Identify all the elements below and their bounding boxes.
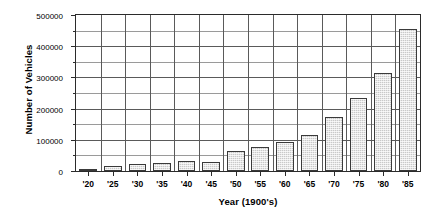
plot-area: 0100000200000300000400000500000'20'25'30… (75, 14, 421, 172)
x-axis-tick-label: '70 (328, 179, 339, 189)
x-axis-tick-label: '55 (255, 179, 266, 189)
x-axis-tick (187, 171, 188, 176)
bar (178, 161, 196, 171)
gridline-vertical (297, 15, 298, 171)
y-axis-tick: 400000 (71, 46, 76, 47)
gridline-vertical (125, 15, 126, 171)
x-axis-tick-label: '25 (107, 179, 118, 189)
x-axis-tick-label: '80 (377, 179, 388, 189)
bar (129, 164, 147, 171)
x-axis-tick-label: '45 (205, 179, 216, 189)
y-axis-tick-label: 400000 (36, 43, 63, 52)
x-axis-tick-label: '85 (402, 179, 413, 189)
y-axis-tick: 0 (71, 171, 76, 172)
y-axis-tick: 100000 (71, 140, 76, 141)
x-axis-tick (285, 171, 286, 176)
x-axis-tick-label: '50 (230, 179, 241, 189)
y-axis-tick: 300000 (71, 77, 76, 78)
x-axis-tick-label: '60 (279, 179, 290, 189)
x-axis-tick (162, 171, 163, 176)
gridline-vertical (371, 15, 372, 171)
gridline-vertical (395, 15, 396, 171)
x-axis-tick (334, 171, 335, 176)
bar (104, 166, 122, 171)
y-axis-tick: 200000 (71, 109, 76, 110)
x-axis-title: Year (1900's) (75, 196, 421, 207)
x-axis-tick (113, 171, 114, 176)
bar (153, 163, 171, 171)
x-axis-tick (408, 171, 409, 176)
y-axis-tick-label: 100000 (36, 136, 63, 145)
gridline-vertical (174, 15, 175, 171)
y-axis-tick-label: 200000 (36, 105, 63, 114)
bar (276, 142, 294, 171)
x-axis-tick (383, 171, 384, 176)
x-axis-tick-label: '65 (304, 179, 315, 189)
x-axis-tick (137, 171, 138, 176)
x-axis-tick (260, 171, 261, 176)
y-axis-tick-minor (73, 62, 76, 63)
bar (227, 151, 245, 171)
y-axis-tick-minor (73, 124, 76, 125)
x-axis-tick-label: '35 (156, 179, 167, 189)
y-axis-title: Number of Vehicles (23, 10, 34, 170)
bar (251, 147, 269, 171)
y-axis-tick-label: 500000 (36, 12, 63, 21)
y-axis-tick: 500000 (71, 15, 76, 16)
gridline-vertical (273, 15, 274, 171)
bar (399, 29, 417, 171)
x-axis-tick (236, 171, 237, 176)
bar (301, 135, 319, 172)
gridline-vertical (150, 15, 151, 171)
x-axis-tick-label: '30 (132, 179, 143, 189)
x-axis-tick (211, 171, 212, 176)
bar (350, 98, 368, 171)
x-axis-tick (359, 171, 360, 176)
bar (374, 73, 392, 171)
gridline-vertical (346, 15, 347, 171)
y-axis-tick-minor (73, 31, 76, 32)
x-axis-tick (88, 171, 89, 176)
gridline-vertical (248, 15, 249, 171)
y-axis-tick-label: 300000 (36, 74, 63, 83)
bar (79, 169, 97, 171)
x-axis-tick (309, 171, 310, 176)
gridline-vertical (199, 15, 200, 171)
gridline-vertical (223, 15, 224, 171)
bar (325, 117, 343, 171)
bar-chart: Number of Vehicles 010000020000030000040… (0, 0, 433, 217)
y-axis-tick-label: 0 (59, 168, 63, 177)
y-axis-tick-minor (73, 93, 76, 94)
x-axis-tick-label: '40 (181, 179, 192, 189)
x-axis-tick-label: '20 (83, 179, 94, 189)
bar (202, 162, 220, 171)
gridline-vertical (322, 15, 323, 171)
x-axis-tick-label: '75 (353, 179, 364, 189)
y-axis-tick-minor (73, 155, 76, 156)
gridline-vertical (101, 15, 102, 171)
